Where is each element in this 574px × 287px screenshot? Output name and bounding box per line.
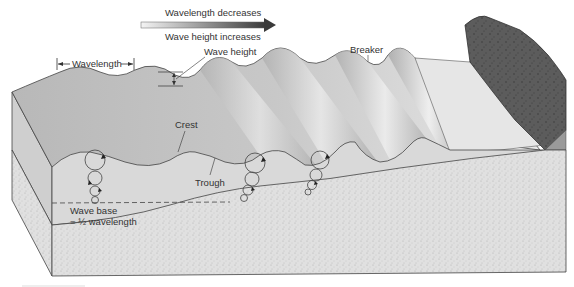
- wave-base-label: Wave base: [70, 205, 117, 216]
- wavelength-dimension: Wavelength: [57, 58, 134, 70]
- crest-label: Crest: [175, 119, 198, 130]
- trough-label: Trough: [195, 177, 225, 188]
- wave-diagram: Wavelength decreases Wave height increas…: [0, 0, 574, 287]
- trend-arrow: Wavelength decreases Wave height increas…: [141, 7, 276, 42]
- wave-height-increases-label: Wave height increases: [165, 31, 261, 42]
- wavelength-decreases-label: Wavelength decreases: [165, 7, 262, 18]
- wavelength-label: Wavelength: [72, 58, 122, 69]
- gradient-arrow-shaft: [141, 22, 265, 28]
- wave-base-formula: = ½ wavelength: [70, 216, 137, 227]
- wave-height-label: Wave height: [204, 46, 257, 57]
- arrow-head-icon: [264, 18, 276, 32]
- breaker-label: Breaker: [350, 44, 383, 55]
